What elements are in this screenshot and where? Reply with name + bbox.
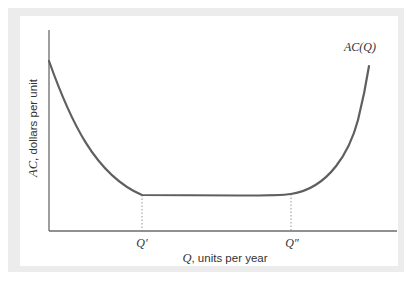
curve-label: AC(Q) <box>343 40 376 54</box>
ac-curve <box>49 61 369 196</box>
x-axis-title: Q, units per year <box>182 251 267 265</box>
y-axis-rest: , dollars per unit <box>27 78 39 161</box>
q-double-prime-label: Q″ <box>285 236 300 250</box>
y-axis-title: AC, dollars per unit <box>26 78 40 178</box>
y-axis-var: AC <box>26 160 40 178</box>
ac-chart: AC(Q) Q′ Q″ Q, units per year AC, dollar… <box>0 0 412 287</box>
x-axis-var: Q <box>182 251 191 265</box>
q-prime-label: Q′ <box>136 236 148 250</box>
x-axis-rest: , units per year <box>191 252 267 264</box>
